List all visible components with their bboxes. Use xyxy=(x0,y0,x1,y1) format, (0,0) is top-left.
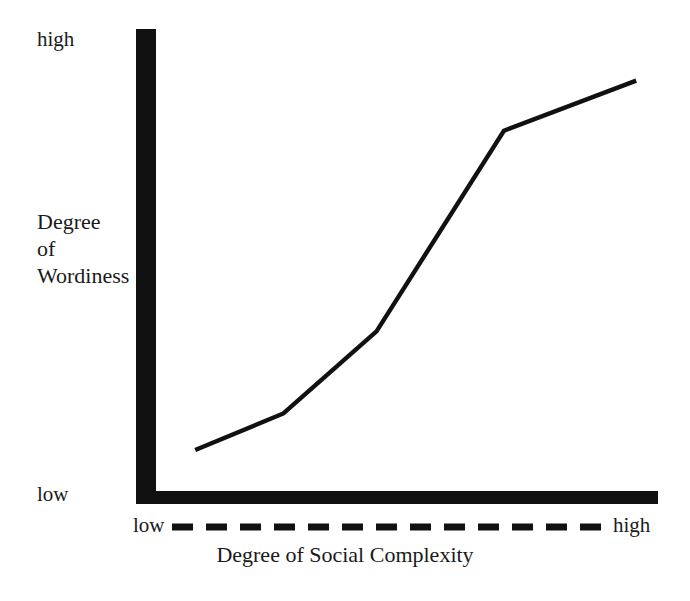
plot-area xyxy=(0,0,690,601)
data-series-line xyxy=(195,81,636,450)
chart-figure: high low low high Degree of Wordiness De… xyxy=(0,0,690,601)
